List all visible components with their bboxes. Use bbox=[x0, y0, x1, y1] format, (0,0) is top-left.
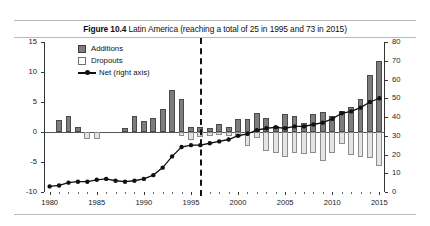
x-tick-minor bbox=[182, 192, 183, 194]
right-tick bbox=[385, 155, 388, 156]
net-data-point bbox=[189, 143, 193, 147]
net-data-point bbox=[368, 100, 372, 104]
x-tick-minor bbox=[257, 192, 258, 194]
net-data-point bbox=[132, 179, 136, 183]
right-tick bbox=[385, 117, 388, 118]
left-tick-label: -5 bbox=[0, 158, 37, 166]
x-tick-minor bbox=[304, 192, 305, 194]
net-data-point bbox=[321, 120, 325, 124]
right-tick-label: 40 bbox=[392, 113, 430, 121]
legend-label-additions: Additions bbox=[91, 44, 123, 53]
x-tick-minor bbox=[78, 192, 79, 194]
dropouts-swatch-icon bbox=[78, 57, 86, 65]
figure-title-text: Latin America (reaching a total of 25 in… bbox=[126, 24, 347, 34]
x-tick-minor bbox=[266, 192, 267, 194]
net-data-point bbox=[339, 111, 343, 115]
net-data-point bbox=[208, 141, 212, 145]
x-tick-minor bbox=[210, 192, 211, 194]
right-tick-label: 30 bbox=[392, 132, 430, 140]
figure-container: Figure 10.4 Latin America (reaching a to… bbox=[0, 0, 430, 226]
chart-legend: Additions Dropouts Net (right axis) bbox=[78, 43, 150, 79]
right-tick-label: 0 bbox=[392, 188, 430, 196]
x-tick-major bbox=[285, 192, 286, 195]
x-tick-minor bbox=[106, 192, 107, 194]
x-tick-minor bbox=[276, 192, 277, 194]
x-tick-minor bbox=[87, 192, 88, 194]
additions-swatch-icon bbox=[78, 45, 86, 53]
net-data-point bbox=[104, 177, 108, 181]
net-data-point bbox=[179, 145, 183, 149]
net-data-point bbox=[292, 124, 296, 128]
x-tick-label: 2010 bbox=[312, 198, 352, 207]
x-tick-minor bbox=[163, 192, 164, 194]
x-tick-minor bbox=[361, 192, 362, 194]
x-tick-minor bbox=[323, 192, 324, 194]
left-tick-label: 15 bbox=[0, 38, 37, 46]
legend-item-dropouts: Dropouts bbox=[78, 55, 150, 66]
right-tick-label: 60 bbox=[392, 76, 430, 84]
net-data-point bbox=[170, 154, 174, 158]
net-data-point bbox=[95, 178, 99, 182]
x-tick-label: 1995 bbox=[171, 198, 211, 207]
left-tick-label: 10 bbox=[0, 68, 37, 76]
right-tick bbox=[385, 136, 388, 137]
x-tick-label: 1985 bbox=[77, 198, 117, 207]
x-tick-major bbox=[332, 192, 333, 195]
net-data-point bbox=[57, 183, 61, 187]
left-tick-label: 0 bbox=[0, 128, 37, 136]
legend-label-net: Net (right axis) bbox=[99, 68, 150, 77]
right-tick bbox=[385, 42, 388, 43]
x-tick-label: 2000 bbox=[218, 198, 258, 207]
net-data-point bbox=[311, 122, 315, 126]
x-tick-minor bbox=[153, 192, 154, 194]
x-tick-label: 1980 bbox=[30, 198, 70, 207]
net-data-point bbox=[358, 105, 362, 109]
net-data-point bbox=[245, 132, 249, 136]
title-divider bbox=[14, 37, 416, 38]
net-data-point bbox=[330, 117, 334, 121]
net-data-point bbox=[160, 165, 164, 169]
figure-number: Figure 10.4 bbox=[83, 24, 126, 34]
right-tick-label: 80 bbox=[392, 38, 430, 46]
x-tick-minor bbox=[125, 192, 126, 194]
x-tick-minor bbox=[68, 192, 69, 194]
net-data-point bbox=[226, 137, 230, 141]
net-data-point bbox=[274, 125, 278, 129]
x-tick-label: 2015 bbox=[359, 198, 399, 207]
right-tick-label: 50 bbox=[392, 94, 430, 102]
x-tick-minor bbox=[295, 192, 296, 194]
net-data-point bbox=[236, 134, 240, 138]
net-data-point bbox=[66, 180, 70, 184]
net-data-point bbox=[151, 173, 155, 177]
x-tick-major bbox=[97, 192, 98, 195]
net-data-point bbox=[113, 179, 117, 183]
x-tick-label: 1990 bbox=[124, 198, 164, 207]
net-data-point bbox=[85, 179, 89, 183]
x-tick-minor bbox=[219, 192, 220, 194]
x-tick-minor bbox=[342, 192, 343, 194]
net-data-point bbox=[349, 109, 353, 113]
net-data-point bbox=[255, 128, 259, 132]
x-tick-major bbox=[191, 192, 192, 195]
x-tick-minor bbox=[59, 192, 60, 194]
right-tick bbox=[385, 80, 388, 81]
legend-item-net: Net (right axis) bbox=[78, 67, 150, 78]
x-tick-label: 2005 bbox=[265, 198, 305, 207]
right-tick bbox=[385, 173, 388, 174]
x-tick-minor bbox=[134, 192, 135, 194]
net-data-point bbox=[217, 139, 221, 143]
x-tick-minor bbox=[351, 192, 352, 194]
net-data-point bbox=[302, 124, 306, 128]
right-tick-label: 70 bbox=[392, 57, 430, 65]
right-tick bbox=[385, 192, 388, 193]
x-tick-minor bbox=[172, 192, 173, 194]
left-tick-label: 5 bbox=[0, 98, 37, 106]
x-tick-major bbox=[50, 192, 51, 195]
net-data-point bbox=[123, 179, 127, 183]
right-tick-label: 20 bbox=[392, 151, 430, 159]
net-line-swatch-icon bbox=[78, 69, 96, 77]
x-tick-minor bbox=[229, 192, 230, 194]
figure-title: Figure 10.4 Latin America (reaching a to… bbox=[14, 23, 416, 35]
left-tick bbox=[41, 192, 44, 193]
x-tick-major bbox=[238, 192, 239, 195]
